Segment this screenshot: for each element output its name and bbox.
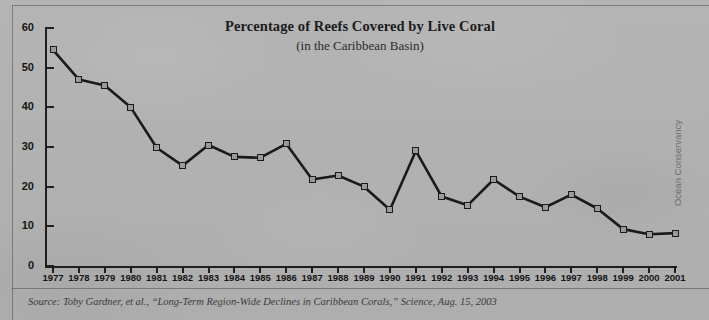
x-axis-label: 1995 — [508, 272, 532, 283]
data-point-marker — [672, 230, 679, 237]
data-point-marker — [464, 202, 471, 209]
y-axis-tick — [45, 225, 54, 227]
data-point-marker — [205, 142, 212, 149]
x-axis-label: 1978 — [67, 272, 91, 283]
data-point-marker — [516, 193, 523, 200]
data-point-marker — [127, 104, 134, 111]
data-point-marker — [50, 46, 57, 53]
data-point-marker — [153, 144, 160, 151]
data-point-marker — [101, 82, 108, 89]
data-point-marker — [594, 205, 601, 212]
x-axis-line — [45, 266, 677, 268]
x-axis-label: 1977 — [41, 272, 65, 283]
data-point-marker — [179, 162, 186, 169]
x-axis-label: 1981 — [145, 272, 169, 283]
y-axis-label: 20 — [8, 180, 34, 192]
y-axis-tick — [45, 146, 54, 148]
x-axis-label: 1990 — [378, 272, 402, 283]
data-point-marker — [335, 172, 342, 179]
x-axis-label: 1996 — [533, 272, 557, 283]
y-axis-label: 30 — [8, 140, 34, 152]
y-axis-label: 60 — [8, 21, 34, 33]
data-point-marker — [361, 183, 368, 190]
data-point-marker — [231, 153, 238, 160]
source-note: Source: Toby Gardner, et al., “Long-Term… — [28, 296, 497, 307]
x-axis-label: 1999 — [611, 272, 635, 283]
y-axis-line — [45, 28, 47, 268]
x-axis-label: 1985 — [248, 272, 272, 283]
data-point-marker — [75, 76, 82, 83]
y-axis-label: 10 — [8, 219, 34, 231]
x-axis-label: 1983 — [197, 272, 221, 283]
data-point-marker — [646, 231, 653, 238]
y-axis-label: 50 — [8, 61, 34, 73]
plot-area: 0102030405060197719781979198019811982198… — [0, 0, 709, 320]
x-axis-label: 1987 — [300, 272, 324, 283]
x-axis-label: 1989 — [352, 272, 376, 283]
chart-page: Percentage of Reefs Covered by Live Cora… — [0, 0, 709, 320]
data-point-marker — [542, 204, 549, 211]
data-point-marker — [309, 176, 316, 183]
x-axis-label: 1979 — [93, 272, 117, 283]
x-axis-label: 1982 — [171, 272, 195, 283]
data-point-marker — [438, 193, 445, 200]
data-point-marker — [257, 154, 264, 161]
x-axis-label: 1992 — [430, 272, 454, 283]
y-axis-tick — [45, 67, 54, 69]
y-axis-label: 0 — [8, 259, 34, 271]
y-axis-tick — [45, 186, 54, 188]
x-axis-label: 1994 — [482, 272, 506, 283]
data-point-marker — [283, 140, 290, 147]
x-axis-label: 2001 — [663, 272, 687, 283]
x-axis-label: 1998 — [585, 272, 609, 283]
y-axis-tick — [45, 106, 54, 108]
data-point-marker — [490, 176, 497, 183]
x-axis-label: 1986 — [274, 272, 298, 283]
x-axis-label: 1988 — [326, 272, 350, 283]
data-point-marker — [620, 226, 627, 233]
x-axis-label: 1980 — [119, 272, 143, 283]
y-axis-label: 40 — [8, 100, 34, 112]
x-axis-label: 1984 — [222, 272, 246, 283]
x-axis-label: 1997 — [559, 272, 583, 283]
data-point-marker — [568, 191, 575, 198]
data-point-marker — [412, 147, 419, 154]
x-axis-label: 1993 — [456, 272, 480, 283]
y-axis-tick — [45, 27, 54, 29]
x-axis-label: 2000 — [637, 272, 661, 283]
data-point-marker — [386, 206, 393, 213]
credit-label: Ocean Conservancy — [672, 120, 683, 206]
x-axis-label: 1991 — [404, 272, 428, 283]
